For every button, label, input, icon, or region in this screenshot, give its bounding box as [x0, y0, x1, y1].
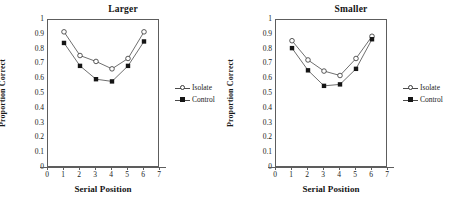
y-tick-label: 0.4 [248, 104, 272, 112]
x-tick-label: 7 [152, 171, 166, 179]
y-tick-label: 0.5 [20, 89, 44, 97]
x-tick-label: 0 [40, 171, 54, 179]
series-line [292, 39, 372, 86]
data-point-open-circle [78, 53, 83, 58]
legend: Isolate Control [175, 83, 227, 107]
x-tick-label: 0 [268, 171, 282, 179]
chart-panel-smaller: Smaller Proportion Correct 10.90.80.70.6… [228, 0, 456, 204]
legend-item-control: Control [175, 95, 227, 105]
chart-panel-larger: Larger Proportion Correct 10.90.80.70.60… [0, 0, 228, 204]
y-tick-label: 0.7 [20, 59, 44, 67]
legend-label: Isolate [192, 84, 212, 92]
data-point-open-circle [354, 56, 359, 61]
x-tick-label: 2 [300, 171, 314, 179]
data-point-filled-square [94, 77, 98, 81]
x-tick-mark [307, 167, 308, 170]
data-point-filled-square [142, 39, 146, 43]
x-tick-mark [63, 167, 64, 170]
x-tick-label: 1 [284, 171, 298, 179]
x-tick-label: 7 [380, 171, 394, 179]
data-point-open-circle [110, 67, 115, 72]
chart-title: Smaller [228, 4, 456, 14]
x-tick-label: 6 [364, 171, 378, 179]
x-axis-label: Serial Position [30, 184, 176, 194]
legend-item-control: Control [403, 95, 455, 105]
figure-canvas: Larger Proportion Correct 10.90.80.70.60… [0, 0, 456, 204]
data-point-open-circle [62, 30, 67, 35]
data-point-open-circle [142, 30, 147, 35]
data-point-filled-square [370, 37, 374, 41]
x-tick-mark [111, 167, 112, 170]
data-point-filled-square [126, 64, 130, 68]
data-point-filled-square [354, 67, 358, 71]
series-line [64, 41, 144, 81]
x-axis-ticks: 01234567 [47, 167, 159, 183]
y-tick-label: 0.6 [248, 74, 272, 82]
chart-title: Larger [0, 4, 228, 14]
x-tick-label: 5 [120, 171, 134, 179]
x-tick-label: 1 [56, 171, 70, 179]
y-tick-label: 0.5 [248, 89, 272, 97]
legend-label: Isolate [420, 84, 440, 92]
x-tick-label: 3 [316, 171, 330, 179]
x-tick-mark [159, 167, 160, 170]
series-line [64, 32, 144, 69]
y-tick-label: 1 [248, 15, 272, 23]
x-tick-label: 3 [88, 171, 102, 179]
y-tick-label: 0.9 [20, 30, 44, 38]
y-tick-label: 0.2 [248, 133, 272, 141]
x-tick-mark [95, 167, 96, 170]
data-point-open-circle [126, 56, 131, 61]
legend-label: Control [420, 96, 443, 104]
y-tick-label: 1 [20, 15, 44, 23]
x-tick-mark [143, 167, 144, 170]
x-tick-label: 4 [104, 171, 118, 179]
y-axis-ticks: 10.90.80.70.60.50.40.30.20.10 [18, 19, 44, 167]
plot-area [47, 19, 159, 167]
y-tick-label: 0.4 [20, 104, 44, 112]
legend-label: Control [192, 96, 215, 104]
x-tick-label: 5 [348, 171, 362, 179]
data-point-filled-square [62, 41, 66, 45]
x-tick-mark [275, 167, 276, 170]
data-point-filled-square [322, 84, 326, 88]
x-tick-mark [323, 167, 324, 170]
x-tick-mark [127, 167, 128, 170]
legend-marker-open-circle-icon [403, 84, 418, 93]
data-point-open-circle [94, 59, 99, 64]
plot-series-svg [48, 20, 160, 168]
y-axis-label: Proportion Correct [0, 19, 12, 167]
y-tick-label: 0.7 [248, 59, 272, 67]
y-axis-ticks: 10.90.80.70.60.50.40.30.20.10 [246, 19, 272, 167]
data-point-filled-square [110, 79, 114, 83]
x-tick-label: 6 [136, 171, 150, 179]
legend-item-isolate: Isolate [175, 83, 227, 93]
x-axis-label: Serial Position [258, 184, 404, 194]
y-tick-label: 0.2 [20, 133, 44, 141]
x-tick-mark [47, 167, 48, 170]
data-point-open-circle [338, 73, 343, 78]
x-tick-label: 2 [72, 171, 86, 179]
x-tick-mark [371, 167, 372, 170]
legend-marker-filled-square-icon [403, 96, 418, 105]
plot-series-svg [276, 20, 388, 168]
plot-area [275, 19, 387, 167]
data-point-open-circle [306, 58, 311, 63]
x-tick-mark [79, 167, 80, 170]
legend-marker-filled-square-icon [175, 96, 190, 105]
x-tick-mark [355, 167, 356, 170]
data-point-open-circle [290, 38, 295, 43]
data-point-open-circle [322, 69, 327, 74]
y-tick-label: 0.1 [248, 148, 272, 156]
data-point-filled-square [290, 46, 294, 50]
y-tick-label: 0.3 [248, 119, 272, 127]
x-tick-mark [291, 167, 292, 170]
legend-marker-open-circle-icon [175, 84, 190, 93]
x-tick-label: 4 [332, 171, 346, 179]
series-line [292, 36, 372, 75]
data-point-filled-square [338, 82, 342, 86]
legend-item-isolate: Isolate [403, 83, 455, 93]
y-tick-label: 0.9 [248, 30, 272, 38]
y-tick-label: 0.8 [20, 45, 44, 53]
data-point-filled-square [78, 64, 82, 68]
